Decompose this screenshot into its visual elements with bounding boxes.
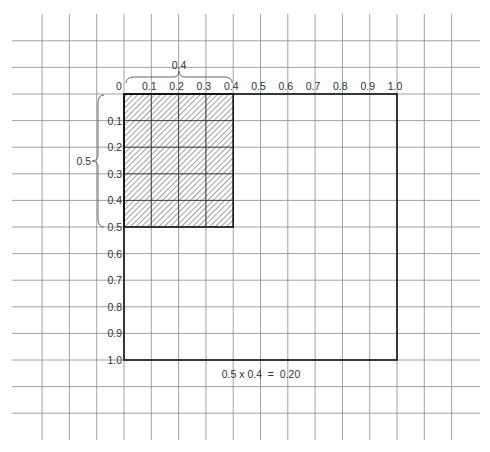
x-tick-label: 0.8 (333, 80, 348, 92)
y-tick-label: 0.3 (107, 168, 122, 180)
x-tick-label: 0.5 (251, 80, 266, 92)
y-tick-label: 0.1 (107, 115, 122, 127)
x-tick-label: 1.0 (388, 80, 403, 92)
y-tick-label: 0.8 (107, 301, 122, 313)
height-brace-label: 0.5 (76, 155, 91, 167)
x-tick-label: 0.4 (224, 80, 239, 92)
x-tick-label: 0.6 (278, 80, 293, 92)
x-tick-label: 0.9 (360, 80, 375, 92)
x-tick-label: 0.7 (306, 80, 321, 92)
y-tick-label: 0.4 (107, 194, 122, 206)
area-model-diagram: 00.10.20.30.40.50.60.70.80.91.0 0.10.20.… (0, 0, 490, 452)
width-brace-label: 0.4 (172, 59, 187, 71)
height-brace (92, 95, 104, 227)
y-tick-label: 0.9 (107, 327, 122, 339)
y-tick-label: 0.5 (107, 221, 122, 233)
x-tick-label: 0.3 (197, 80, 212, 92)
x-tick-label: 0.1 (142, 80, 157, 92)
x-tick-label: 0 (116, 80, 122, 92)
y-tick-label: 0.7 (107, 274, 122, 286)
y-tick-label: 0.6 (107, 248, 122, 260)
x-axis-labels: 00.10.20.30.40.50.60.70.80.91.0 (116, 80, 402, 92)
x-tick-label: 0.2 (169, 80, 184, 92)
y-axis-labels: 0.10.20.30.40.50.60.70.80.91.0 (107, 115, 122, 366)
equation-text: 0.5 x 0.4 = 0.20 (222, 368, 301, 380)
y-tick-label: 0.2 (107, 141, 122, 153)
y-tick-label: 1.0 (107, 354, 122, 366)
